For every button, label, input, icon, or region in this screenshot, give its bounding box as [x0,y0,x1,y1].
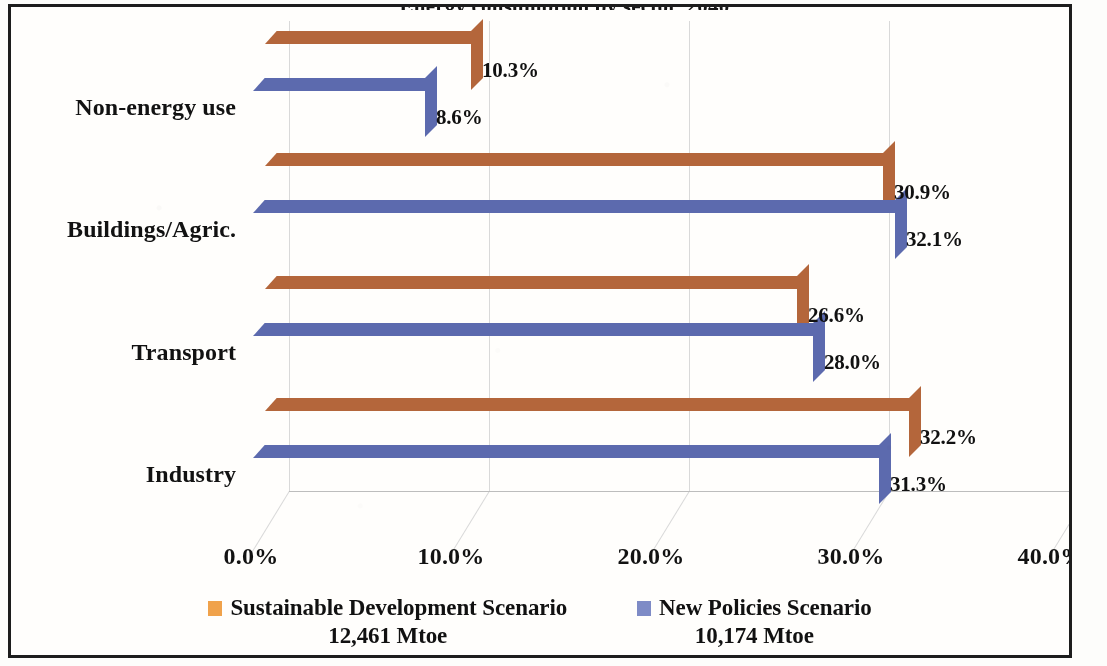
y-category-label-0: Non-energy use [21,94,236,121]
bar-top-face [253,200,907,213]
bar-top-face [265,276,809,289]
y-category-label-2: Transport [21,339,236,366]
data-label-sustainable-3: 32.2% [920,425,977,450]
bar-top-face [265,153,895,166]
x-tick-label-1: 10.0% [386,543,516,570]
data-label-newpolicies-2: 28.0% [824,350,881,375]
bar-buildings-agric-new-policies [253,212,895,259]
legend-line: Sustainable Development Scenario 12,461 … [11,595,1069,649]
legend-sublabel-0: 12,461 Mtoe [208,623,567,649]
data-label-newpolicies-0: 8.6% [436,105,482,130]
data-label-newpolicies-3: 31.3% [890,472,947,497]
data-label-sustainable-1: 30.9% [894,180,951,205]
y-category-label-3: Industry [21,461,236,488]
bar-top-face [253,78,437,91]
chart-frame: Energy consumption by sector, 2040 0.0%1… [8,4,1072,658]
x-tick-label-0: 0.0% [186,543,316,570]
legend-sublabel-1: 10,174 Mtoe [637,623,872,649]
bar-top-face [265,31,483,44]
chart-legend: Sustainable Development Scenario 12,461 … [11,595,1069,649]
plot-area: 0.0%10.0%20.0%30.0%40.0%Non-energy useBu… [11,7,1069,655]
legend-label-0: Sustainable Development Scenario [230,595,567,620]
legend-entry-label-wrap: Sustainable Development Scenario [208,595,567,621]
bar-top-face [253,323,825,336]
legend-entry-label-wrap: New Policies Scenario [637,595,872,621]
bar-non-energy-use-new-policies [253,90,425,137]
x-tick-label-2: 20.0% [586,543,716,570]
y-category-label-1: Buildings/Agric. [21,216,236,243]
data-label-newpolicies-1: 32.1% [906,227,963,252]
legend-entry-new-policies-scenario: New Policies Scenario 10,174 Mtoe [637,595,872,649]
bar-top-face [265,398,921,411]
legend-label-1: New Policies Scenario [659,595,872,620]
bar-top-face [253,445,891,458]
legend-swatch-icon-0 [208,601,222,616]
bar-transport-new-policies [253,335,813,382]
data-label-sustainable-2: 26.6% [808,303,865,328]
data-label-sustainable-0: 10.3% [482,58,539,83]
x-tick-label-3: 30.0% [786,543,916,570]
legend-entry-sustainable-development-scenario: Sustainable Development Scenario 12,461 … [208,595,567,649]
x-tick-label-4: 40.0% [986,543,1072,570]
bar-industry-new-policies [253,457,879,504]
legend-swatch-icon-1 [637,601,651,616]
